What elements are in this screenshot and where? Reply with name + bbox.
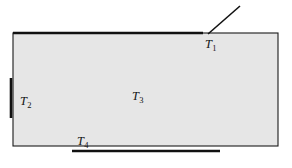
- label-t2-subscript: 2: [27, 100, 31, 110]
- figure-container: T1 T2 T3 T4: [0, 0, 292, 168]
- t1-leader-line: [208, 6, 240, 34]
- label-t4: T4: [77, 135, 88, 148]
- rectangular-region: [13, 33, 278, 146]
- figure-diagram: [0, 0, 292, 168]
- label-t4-symbol: T: [77, 134, 84, 148]
- label-t3-symbol: T: [132, 89, 139, 103]
- label-t3: T3: [132, 90, 143, 103]
- label-t4-subscript: 4: [84, 140, 88, 150]
- label-t1-subscript: 1: [212, 43, 216, 53]
- label-t3-subscript: 3: [139, 95, 143, 105]
- label-t2-symbol: T: [20, 94, 27, 108]
- label-t2: T2: [20, 95, 31, 108]
- label-t1: T1: [205, 38, 216, 51]
- label-t1-symbol: T: [205, 37, 212, 51]
